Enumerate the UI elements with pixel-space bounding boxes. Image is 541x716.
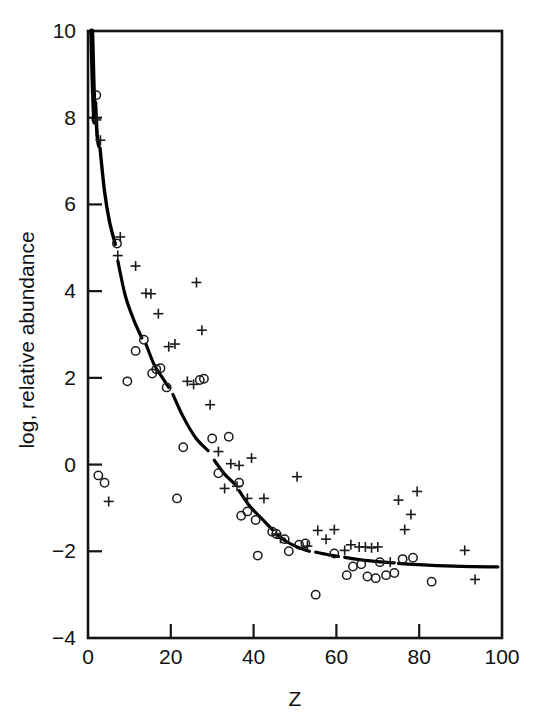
data-point-circle: [312, 590, 320, 598]
data-point-circle: [123, 377, 131, 385]
data-point-plus: [197, 325, 207, 335]
data-point-circle: [349, 562, 357, 570]
data-point-plus: [226, 459, 236, 469]
data-point-circle: [243, 507, 251, 515]
data-point-circle: [363, 572, 371, 580]
fit-curve-segment: [118, 261, 142, 338]
data-point-plus: [313, 525, 323, 535]
data-point-plus: [234, 460, 244, 470]
data-point-circle: [251, 516, 259, 524]
y-tick-label: −4: [52, 626, 76, 649]
data-point-plus: [360, 542, 370, 552]
data-point-circle: [173, 494, 181, 502]
data-point-circle: [285, 547, 293, 555]
data-point-circle: [100, 479, 108, 487]
x-tick-label: 20: [159, 645, 182, 668]
data-point-plus: [213, 447, 223, 457]
data-point-plus: [113, 251, 123, 261]
data-point-plus: [164, 342, 174, 352]
data-point-circle: [390, 569, 398, 577]
data-point-circle: [208, 434, 216, 442]
fit-curve-segment: [100, 148, 115, 244]
data-point-plus: [242, 493, 252, 503]
data-point-circle: [225, 433, 233, 441]
x-tick-label: 60: [325, 645, 348, 668]
x-tick-label: 40: [242, 645, 265, 668]
y-tick-label: 2: [64, 366, 76, 389]
fit-curve-segment: [399, 563, 498, 566]
data-point-circle: [94, 471, 102, 479]
y-tick-label: 4: [64, 279, 76, 302]
x-axis-title: Z: [289, 687, 302, 710]
data-point-circle: [382, 571, 390, 579]
figure-container: −4−20246810 020406080100 Z log, relative…: [0, 0, 541, 716]
y-tick-label: 8: [64, 106, 76, 129]
data-point-plus: [170, 339, 180, 349]
data-point-plus: [292, 472, 302, 482]
data-point-plus: [406, 509, 416, 519]
x-axis-ticks: [171, 624, 419, 638]
data-point-plus: [153, 309, 163, 319]
y-tick-label: 6: [64, 192, 76, 215]
data-point-plus: [340, 545, 350, 555]
fit-curve-segment: [173, 394, 208, 450]
data-point-circle: [372, 574, 380, 582]
data-point-plus: [329, 525, 339, 535]
data-point-circle: [427, 577, 435, 585]
fit-curve: [92, 31, 498, 567]
data-point-plus: [115, 232, 125, 242]
data-point-plus: [385, 557, 395, 567]
data-point-plus: [412, 486, 422, 496]
data-point-plus: [220, 483, 230, 493]
data-point-plus: [247, 453, 257, 463]
data-point-circle: [214, 469, 222, 477]
x-tick-label: 80: [408, 645, 431, 668]
data-point-plus: [346, 540, 356, 550]
y-axis-ticks: [88, 118, 102, 552]
data-point-plus: [470, 574, 480, 584]
data-point-circle: [254, 551, 262, 559]
x-tick-label: 100: [484, 645, 519, 668]
x-tick-label: 0: [82, 645, 94, 668]
data-point-plus: [131, 261, 141, 271]
data-point-plus: [104, 496, 114, 506]
data-point-plus: [400, 525, 410, 535]
y-axis-tick-labels: −4−20246810: [52, 19, 76, 649]
data-point-plus: [146, 289, 156, 299]
data-point-plus: [373, 542, 383, 552]
data-point-circle: [179, 443, 187, 451]
data-point-circle: [131, 347, 139, 355]
data-point-circle: [343, 571, 351, 579]
data-point-plus: [205, 400, 215, 410]
data-point-circle: [140, 336, 148, 344]
data-point-plus: [367, 543, 377, 553]
fit-curve-segment: [316, 552, 339, 556]
y-tick-label: 10: [53, 19, 76, 42]
data-point-circle: [398, 555, 406, 563]
data-point-plus: [460, 545, 470, 555]
y-axis-title: log, relative abundance: [15, 231, 38, 448]
x-axis-tick-labels: 020406080100: [82, 645, 519, 668]
y-tick-label: 0: [64, 453, 76, 476]
data-point-circle: [409, 554, 417, 562]
data-point-plus: [394, 495, 404, 505]
abundance-scatter-chart: −4−20246810 020406080100 Z log, relative…: [0, 0, 541, 716]
data-point-plus: [259, 493, 269, 503]
data-point-plus: [321, 534, 331, 544]
y-tick-label: −2: [52, 539, 76, 562]
data-point-plus: [191, 277, 201, 287]
